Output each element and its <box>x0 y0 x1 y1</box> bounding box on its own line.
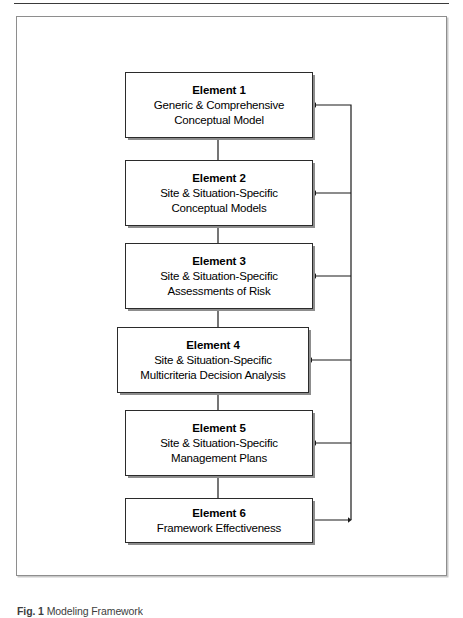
flow-box-element-3[interactable]: Element 3 Site & Situation-Specific Asse… <box>125 243 313 309</box>
box-line: Site & Situation-Specific <box>160 436 278 451</box>
figure-caption-label: Fig. 1 <box>17 605 44 617</box>
box-title: Element 2 <box>192 171 245 186</box>
box-line: Generic & Comprehensive <box>154 98 284 113</box>
box-line: Conceptual Models <box>171 201 266 216</box>
flow-box-element-2[interactable]: Element 2 Site & Situation-Specific Conc… <box>125 160 313 226</box>
box-line: Conceptual Model <box>174 113 264 128</box>
flow-box-element-5[interactable]: Element 5 Site & Situation-Specific Mana… <box>125 410 313 476</box>
flow-box-element-6[interactable]: Element 6 Framework Effectiveness <box>125 498 313 543</box>
figure-caption: Fig. 1 Modeling Framework <box>17 605 143 618</box>
flow-box-element-1[interactable]: Element 1 Generic & Comprehensive Concep… <box>125 72 313 138</box>
box-title: Element 5 <box>192 421 245 436</box>
box-line: Site & Situation-Specific <box>160 269 278 284</box>
flowchart-diagram: Element 1 Generic & Comprehensive Concep… <box>0 0 463 618</box>
box-title: Element 3 <box>192 254 245 269</box>
box-line: Management Plans <box>171 451 267 466</box>
figure-caption-text: Modeling Framework <box>47 605 143 617</box>
flow-box-element-4[interactable]: Element 4 Site & Situation-Specific Mult… <box>117 327 309 393</box>
box-title: Element 4 <box>186 338 239 353</box>
box-line: Site & Situation-Specific <box>160 186 278 201</box>
feedback-to-element1 <box>315 105 351 110</box>
box-line: Site & Situation-Specific <box>154 353 272 368</box>
box-title: Element 1 <box>192 83 245 98</box>
box-line: Multicriteria Decision Analysis <box>140 368 285 383</box>
box-line: Assessments of Risk <box>168 284 271 299</box>
box-line: Framework Effectiveness <box>157 521 281 536</box>
box-title: Element 6 <box>192 506 245 521</box>
